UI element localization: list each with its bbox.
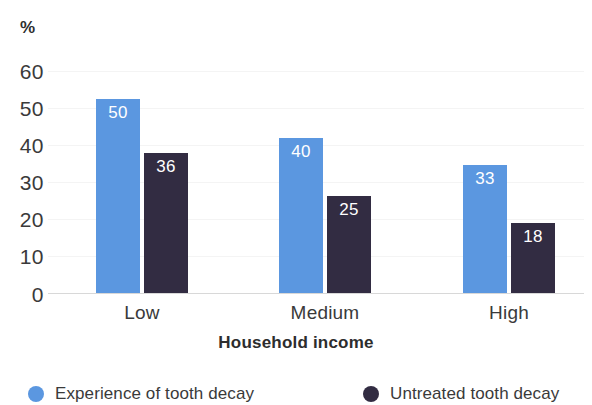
chart-legend: Experience of tooth decay Untreated toot… bbox=[0, 383, 592, 405]
x-axis-line bbox=[48, 293, 584, 294]
plot-area: 50 36 40 25 33 18 bbox=[48, 60, 584, 294]
y-tick-label: 30 bbox=[2, 172, 44, 193]
x-tick-label-low: Low bbox=[94, 302, 190, 324]
gridline bbox=[48, 71, 584, 72]
x-tick-label-medium: Medium bbox=[277, 302, 373, 324]
x-axis-title: Household income bbox=[0, 333, 592, 353]
bar-value-label: 25 bbox=[327, 201, 371, 219]
y-tick-label: 60 bbox=[2, 61, 44, 82]
bar-experience-low: 50 bbox=[96, 99, 140, 293]
legend-item-experience: Experience of tooth decay bbox=[28, 383, 254, 405]
bar-untreated-medium: 25 bbox=[327, 196, 371, 293]
y-tick-label: 50 bbox=[2, 98, 44, 119]
y-tick-label: 10 bbox=[2, 246, 44, 267]
bar-value-label: 50 bbox=[96, 104, 140, 122]
bar-value-label: 40 bbox=[279, 143, 323, 161]
bar-experience-high: 33 bbox=[463, 165, 507, 293]
bar-value-label: 33 bbox=[463, 170, 507, 188]
bar-value-label: 36 bbox=[144, 158, 188, 176]
legend-label: Untreated tooth decay bbox=[390, 384, 559, 404]
bar-value-label: 18 bbox=[511, 228, 555, 246]
legend-color-swatch-icon bbox=[363, 386, 379, 402]
bar-experience-medium: 40 bbox=[279, 138, 323, 293]
legend-color-swatch-icon bbox=[28, 386, 44, 402]
legend-label: Experience of tooth decay bbox=[55, 384, 254, 404]
y-tick-label: 20 bbox=[2, 209, 44, 230]
x-tick-label-high: High bbox=[461, 302, 557, 324]
bar-untreated-low: 36 bbox=[144, 153, 188, 293]
y-tick-label: 40 bbox=[2, 135, 44, 156]
bar-chart: % 60 50 40 30 20 10 0 50 36 40 25 bbox=[0, 0, 592, 405]
legend-item-untreated: Untreated tooth decay bbox=[363, 383, 559, 405]
y-tick-label: 0 bbox=[2, 284, 44, 305]
bar-untreated-high: 18 bbox=[511, 223, 555, 293]
